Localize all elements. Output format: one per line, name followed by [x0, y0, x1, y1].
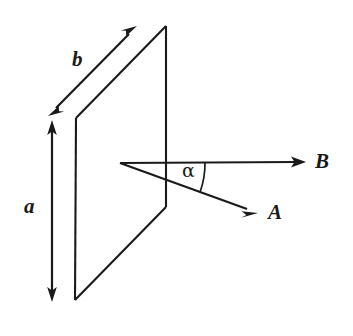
vector-b: [120, 157, 306, 168]
dimension-a-arrow: [47, 120, 57, 302]
label-side-b: b: [72, 49, 83, 70]
plane-bottom-edge: [75, 207, 166, 300]
dimension-b-shaft: [56, 34, 129, 108]
angle-alpha-arc: [200, 163, 205, 193]
label-angle-alpha: α: [182, 161, 195, 180]
label-side-a: a: [24, 196, 35, 217]
label-vector-b: B: [315, 151, 329, 172]
diagram-canvas: [0, 0, 353, 336]
vector-plane-diagram: a b A B α: [0, 0, 353, 336]
label-vector-a: A: [268, 202, 282, 223]
plane-top-edge: [76, 26, 166, 118]
vector-b-shaft: [120, 162, 296, 163]
vector-a-arrowhead: [241, 211, 258, 218]
plane-left-edge: [75, 118, 76, 300]
